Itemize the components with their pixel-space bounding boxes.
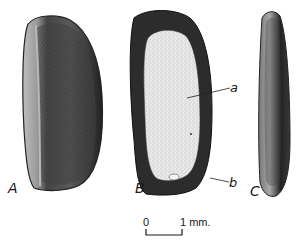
scale-bar: 0 1 mm. <box>143 216 211 235</box>
annotation-b: b <box>229 175 237 190</box>
label-c-view: C <box>250 183 260 199</box>
scale-bar-line <box>146 229 182 235</box>
seed-view-b <box>130 11 230 196</box>
annotation-a: a <box>230 80 238 95</box>
scale-end-label: 1 mm. <box>180 216 211 228</box>
leader-line-b <box>210 178 229 182</box>
seed-b-dot <box>190 133 192 135</box>
seed-b-endosperm <box>144 30 200 181</box>
scale-start-label: 0 <box>143 216 149 228</box>
seed-c-hatching <box>265 18 282 187</box>
label-a-view: A <box>7 180 18 196</box>
label-b-view: B <box>135 180 145 196</box>
seed-illustration: A B C a b 0 1 mm. <box>0 0 298 247</box>
seed-view-a <box>23 16 103 191</box>
seed-b-embryo <box>169 174 179 180</box>
seed-view-c <box>259 12 290 197</box>
